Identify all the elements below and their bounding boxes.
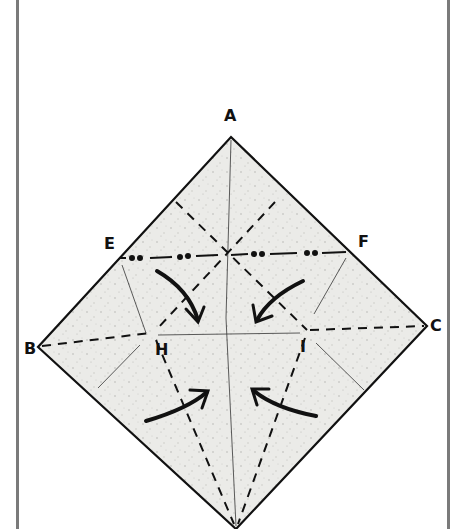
label-B: B	[24, 339, 36, 358]
label-E: E	[104, 234, 115, 253]
label-I: I	[300, 337, 306, 356]
label-A: A	[224, 106, 237, 125]
label-F: F	[358, 232, 369, 251]
origami-diagram: A B C E F H I	[0, 0, 461, 529]
label-H: H	[155, 340, 168, 359]
paper-square	[38, 137, 427, 529]
label-C: C	[430, 316, 442, 335]
